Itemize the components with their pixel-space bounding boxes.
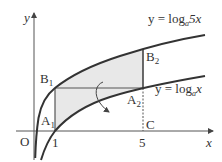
shaded-region-upper (55, 49, 143, 88)
point-label-A1: A1 (41, 114, 55, 130)
y-axis-label: y (24, 11, 30, 24)
tick-label-5: 5 (139, 136, 146, 149)
point-label-B2: B2 (146, 50, 159, 66)
point-label-C: C (146, 118, 155, 131)
curve-label-log-a-5x: y = loga5x (148, 12, 201, 28)
origin-label: O (20, 135, 29, 148)
point-label-A2: A2 (127, 93, 141, 109)
x-axis-label: x (206, 136, 212, 149)
tick-label-1: 1 (52, 136, 59, 149)
point-label-B1: B1 (40, 72, 53, 88)
curve-label-log-a-x: y = logax (155, 82, 202, 98)
